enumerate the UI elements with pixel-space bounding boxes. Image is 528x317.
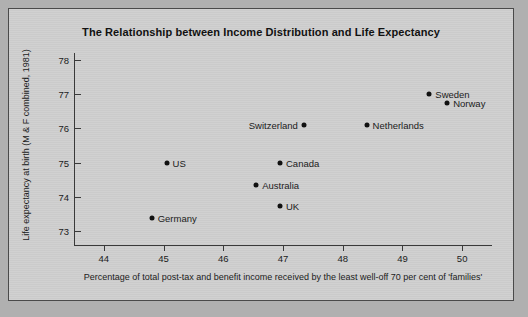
- x-tick-label: 49: [397, 253, 408, 264]
- x-tick: [104, 245, 105, 251]
- data-point[interactable]: [278, 203, 283, 208]
- data-point[interactable]: [254, 183, 259, 188]
- y-axis-title: Life expectancy at birth (M & F combined…: [21, 49, 31, 241]
- y-tick: [75, 128, 81, 129]
- x-tick: [462, 245, 463, 251]
- y-tick-label: 78: [58, 54, 69, 65]
- y-tick: [75, 231, 81, 232]
- y-tick: [75, 60, 81, 61]
- x-tick-label: 50: [457, 253, 468, 264]
- data-point-label: UK: [286, 200, 299, 211]
- y-tick-label: 73: [58, 226, 69, 237]
- chart-title: The Relationship between Income Distribu…: [9, 26, 513, 38]
- y-axis-line: [74, 53, 75, 245]
- x-tick: [343, 245, 344, 251]
- x-tick: [223, 245, 224, 251]
- x-axis-title: Percentage of total post-tax and benefit…: [84, 272, 483, 282]
- figure-panel: The Relationship between Income Distribu…: [8, 8, 514, 301]
- x-tick-label: 44: [99, 253, 110, 264]
- y-tick: [75, 197, 81, 198]
- x-tick: [283, 245, 284, 251]
- data-point-label: Switzerland: [249, 120, 298, 131]
- data-point[interactable]: [445, 100, 450, 105]
- x-tick: [402, 245, 403, 251]
- y-tick-label: 76: [58, 123, 69, 134]
- y-tick: [75, 163, 81, 164]
- data-point[interactable]: [364, 123, 369, 128]
- data-point[interactable]: [278, 160, 283, 165]
- plot-area: 737475767778 44454647484950 SwedenNorway…: [74, 45, 514, 295]
- x-tick-label: 48: [337, 253, 348, 264]
- data-point-label: US: [173, 157, 186, 168]
- x-tick: [164, 245, 165, 251]
- x-tick-label: 47: [278, 253, 289, 264]
- y-tick-label: 75: [58, 157, 69, 168]
- y-tick-label: 74: [58, 192, 69, 203]
- data-point[interactable]: [149, 215, 154, 220]
- data-point[interactable]: [427, 92, 432, 97]
- data-point-label: Australia: [262, 180, 299, 191]
- y-tick-label: 77: [58, 89, 69, 100]
- data-point-label: Netherlands: [373, 120, 424, 131]
- data-point[interactable]: [164, 160, 169, 165]
- data-point-label: Canada: [286, 157, 319, 168]
- data-point-label: Germany: [158, 212, 197, 223]
- x-tick-label: 45: [158, 253, 169, 264]
- data-point[interactable]: [301, 123, 306, 128]
- x-tick-label: 46: [218, 253, 229, 264]
- y-tick: [75, 94, 81, 95]
- data-point-label: Norway: [453, 97, 485, 108]
